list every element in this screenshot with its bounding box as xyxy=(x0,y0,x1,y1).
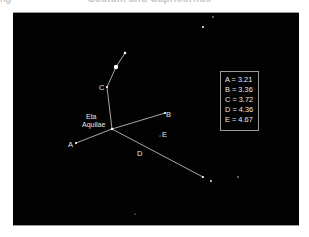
star xyxy=(124,52,127,55)
legend-row-d: D = 4.36 xyxy=(225,105,258,115)
line-segment xyxy=(107,87,112,129)
legend-row-c: C = 3.72 xyxy=(225,95,258,105)
label-b: B xyxy=(166,110,171,119)
line-segment xyxy=(112,129,203,177)
star-eta-aquilae xyxy=(111,128,113,130)
label-e: E xyxy=(162,130,167,139)
legend-row-a: A = 3.21 xyxy=(225,75,258,85)
label-d: D xyxy=(137,149,143,158)
star xyxy=(212,16,213,17)
label-a: A xyxy=(68,140,73,149)
line-segment xyxy=(107,67,116,87)
line-segment xyxy=(112,113,165,129)
star xyxy=(202,176,204,178)
star xyxy=(135,214,136,215)
star-a xyxy=(75,142,77,144)
label-aquilae: Aquilae xyxy=(82,121,105,129)
legend-row-e: E = 4.67 xyxy=(225,115,258,125)
star xyxy=(114,65,118,69)
star xyxy=(202,26,204,28)
line-segment xyxy=(116,53,125,67)
star xyxy=(210,180,212,182)
star xyxy=(237,176,238,177)
star-e xyxy=(160,136,161,137)
label-c: C xyxy=(99,83,105,92)
line-segment xyxy=(76,129,112,143)
magnitude-legend: A = 3.21 B = 3.36 C = 3.72 D = 4.36 E = … xyxy=(220,71,259,131)
star-c xyxy=(106,86,108,88)
constellation-diagram: C B A D E Eta Aquilae xyxy=(0,0,309,237)
label-eta: Eta xyxy=(86,113,97,120)
legend-row-b: B = 3.36 xyxy=(225,85,258,95)
